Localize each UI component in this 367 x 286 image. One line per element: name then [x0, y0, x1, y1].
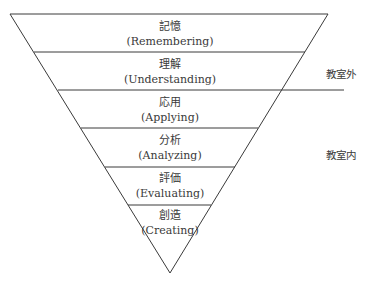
level-en: (Applying) [90, 110, 250, 125]
level-jp: 評価 [90, 171, 250, 186]
level-en: (Analyzing) [90, 148, 250, 163]
level-en: (Remembering) [90, 34, 250, 49]
level-creating: 創造 (Creating) [90, 208, 250, 238]
level-jp: 応用 [90, 95, 250, 110]
level-en: (Creating) [90, 223, 250, 238]
level-understanding: 理解 (Understanding) [90, 57, 250, 87]
level-jp: 記憶 [90, 19, 250, 34]
side-label-outside: 教室外 [326, 66, 356, 81]
level-evaluating: 評価 (Evaluating) [90, 171, 250, 201]
level-en: (Evaluating) [90, 186, 250, 201]
level-jp: 理解 [90, 57, 250, 72]
level-en: (Understanding) [90, 72, 250, 87]
side-label-inside: 教室内 [326, 147, 356, 162]
level-jp: 分析 [90, 133, 250, 148]
level-analyzing: 分析 (Analyzing) [90, 133, 250, 163]
level-jp: 創造 [90, 208, 250, 223]
level-applying: 応用 (Applying) [90, 95, 250, 125]
level-remembering: 記憶 (Remembering) [90, 19, 250, 49]
